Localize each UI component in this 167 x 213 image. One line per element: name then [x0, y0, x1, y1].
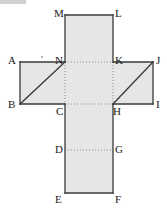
vertex-label-j: J [156, 55, 160, 66]
vertex-label-m: M [54, 8, 64, 19]
cube-net-svg [0, 0, 167, 213]
vertex-label-i: I [156, 99, 160, 110]
vertex-label-a: A [8, 55, 16, 66]
vertex-label-b: B [8, 99, 15, 110]
vertex-label-k: K [115, 55, 123, 66]
vertex-label-d: D [55, 144, 63, 155]
vertex-label-n: N [55, 55, 63, 66]
vertex-label-c: C [56, 106, 63, 117]
vertex-label-g: G [115, 144, 123, 155]
scan-speck [41, 56, 43, 58]
cube-net-figure: MLANKJBCHIDGEF [0, 0, 167, 213]
vertex-label-l: L [115, 8, 122, 19]
vertex-label-e: E [55, 194, 62, 205]
vertex-label-h: H [113, 106, 121, 117]
vertex-label-f: F [115, 194, 121, 205]
